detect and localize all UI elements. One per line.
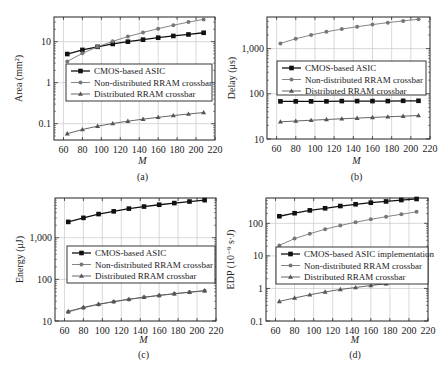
panel-caption: (d): [349, 349, 361, 361]
legend-entry: Distributed RRAM crossbar: [95, 271, 197, 281]
series-circle: [278, 17, 420, 45]
x-axis-label: M: [137, 155, 147, 166]
legend-entry: Distributed RRAM crossbar: [304, 272, 406, 282]
legend: CMOS-based ASICNon-distributed RRAM cros…: [67, 246, 215, 283]
x-tick-label: 180: [171, 325, 186, 336]
x-tick-label: 200: [189, 144, 204, 155]
x-tick-label: 140: [346, 143, 361, 154]
x-tick-label: 200: [401, 325, 416, 336]
y-tick-label: 100: [37, 274, 52, 285]
legend-entry: Distributed RRAM crossbar: [305, 86, 407, 96]
x-tick-label: 160: [152, 325, 167, 336]
series-square: [278, 98, 421, 103]
x-tick-label: 160: [365, 143, 380, 154]
x-tick-label: 200: [403, 143, 418, 154]
legend: CMOS-based ASICNon-distributed RRAM cros…: [277, 61, 426, 96]
y-axis-label: Energy (μJ): [14, 236, 26, 283]
legend-entry: Distributed RRAM crossbar: [94, 89, 196, 99]
x-tick-label: 100: [307, 143, 322, 154]
x-tick-label: 180: [170, 144, 185, 155]
y-tick-label: 0.1: [39, 118, 52, 129]
x-tick-label: 160: [363, 325, 378, 336]
series-square: [66, 198, 207, 224]
y-tick-label: 10: [42, 316, 52, 327]
panel-caption: (c): [138, 349, 149, 361]
y-tick-label: 100: [248, 218, 263, 229]
x-tick-label: 220: [208, 144, 223, 155]
x-tick-label: 200: [190, 325, 205, 336]
chart-panel-2: 6080100120140160180200220101001,000CMOS-…: [226, 17, 438, 183]
x-tick-label: 100: [94, 144, 109, 155]
legend-entry: CMOS-based ASIC: [305, 63, 376, 73]
x-axis-label: M: [350, 334, 360, 345]
x-axis-label: M: [351, 155, 361, 166]
x-tick-label: 60: [271, 325, 281, 336]
chart-panel-4: 60801001201401601802002200.1110100CMOS-b…: [225, 197, 436, 361]
legend-entry: CMOS-based ASIC implementation: [304, 249, 434, 259]
figure-canvas: 60801001201401601802002200.1110CMOS-base…: [0, 0, 446, 373]
y-tick-label: 1: [258, 283, 263, 294]
x-tick-label: 120: [325, 325, 340, 336]
x-axis-label: M: [138, 334, 148, 345]
x-tick-label: 80: [290, 325, 300, 336]
x-tick-label: 80: [77, 144, 87, 155]
panel-caption: (b): [351, 171, 363, 183]
x-tick-label: 120: [113, 144, 128, 155]
series-triangle: [278, 113, 421, 124]
y-tick-label: 10: [41, 36, 51, 47]
legend-entry: Non-distributed RRAM crossbar: [94, 78, 212, 88]
x-tick-label: 60: [59, 325, 69, 336]
y-tick-label: 10: [254, 134, 264, 145]
x-tick-label: 80: [291, 143, 301, 154]
y-axis-label: EDP (10⁻⁹ s·J): [225, 230, 237, 290]
panel-caption: (a): [137, 171, 148, 183]
x-tick-label: 80: [78, 325, 88, 336]
y-tick-label: 1,000: [242, 43, 265, 54]
x-tick-label: 180: [382, 325, 397, 336]
x-tick-label: 100: [95, 325, 110, 336]
chart-panel-1: 60801001201401601802002200.1110CMOS-base…: [13, 17, 223, 183]
legend: CMOS-based ASICNon-distributed RRAM cros…: [66, 64, 212, 101]
x-tick-label: 180: [384, 143, 399, 154]
y-axis-label: Area (mm²): [13, 55, 25, 102]
x-tick-label: 120: [327, 143, 342, 154]
y-axis-label: Delay (μs): [226, 57, 238, 99]
y-tick-label: 0.1: [251, 316, 264, 327]
series-circle: [277, 210, 418, 248]
y-tick-label: 100: [249, 88, 264, 99]
legend-entry: Non-distributed RRAM crossbar: [305, 75, 423, 85]
legend-entry: Non-distributed RRAM crossbar: [304, 261, 422, 271]
legend-entry: CMOS-based ASIC: [94, 66, 165, 76]
x-tick-label: 120: [114, 325, 129, 336]
legend-entry: CMOS-based ASIC: [95, 248, 166, 258]
x-tick-label: 60: [272, 143, 282, 154]
series-triangle: [65, 110, 206, 136]
y-tick-label: 10: [253, 250, 263, 261]
x-tick-label: 160: [151, 144, 166, 155]
y-tick-label: 1: [46, 77, 51, 88]
x-tick-label: 60: [58, 144, 68, 155]
x-tick-label: 220: [421, 325, 436, 336]
x-tick-label: 140: [132, 144, 147, 155]
x-tick-label: 100: [306, 325, 321, 336]
y-tick-label: 1,000: [30, 232, 53, 243]
x-tick-label: 220: [209, 325, 224, 336]
series-triangle: [66, 288, 207, 313]
x-tick-label: 220: [423, 143, 438, 154]
legend-entry: Non-distributed RRAM crossbar: [95, 260, 213, 270]
chart-panel-3: 6080100120140160180200220101001,000CMOS-…: [14, 198, 224, 361]
legend: CMOS-based ASIC implementationNon-distri…: [276, 247, 434, 284]
